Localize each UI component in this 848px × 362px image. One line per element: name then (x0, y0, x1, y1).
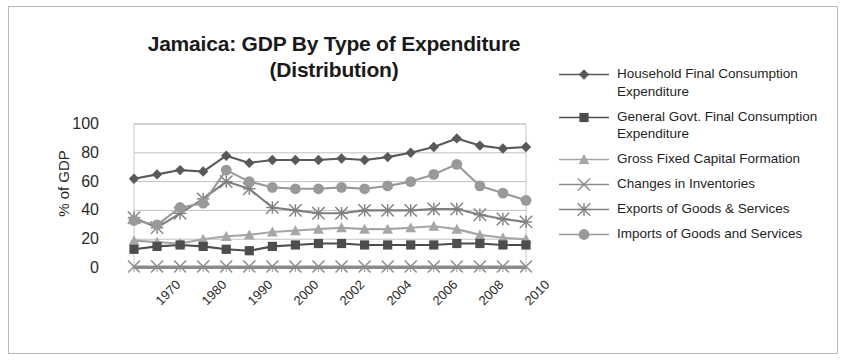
data-point-marker (474, 181, 485, 192)
legend-label: Imports of Goods and Services (611, 225, 802, 243)
data-point-marker (175, 202, 186, 213)
data-point-marker (474, 209, 486, 221)
legend-marker-square-icon (557, 109, 611, 126)
legend-label: Exports of Goods & Services (611, 200, 790, 218)
legend-item: Household Final Consumption Expenditure (557, 65, 848, 101)
data-point-marker (383, 240, 392, 249)
legend-item: Exports of Goods & Services (557, 200, 848, 218)
data-point-marker (129, 215, 140, 226)
data-point-marker (405, 204, 417, 216)
data-point-marker (266, 201, 278, 213)
data-point-marker (360, 240, 369, 249)
data-point-marker (314, 239, 323, 248)
data-point-marker (521, 240, 530, 249)
data-point-marker (497, 213, 509, 225)
data-point-marker (359, 183, 370, 194)
data-point-marker (498, 188, 509, 199)
data-point-marker (335, 207, 347, 219)
data-point-marker (268, 242, 277, 251)
data-point-marker (578, 204, 590, 216)
legend-label: Gross Fixed Capital Formation (611, 150, 800, 168)
data-point-marker (579, 113, 588, 122)
data-point-marker (381, 204, 393, 216)
legend-marker-circle-icon (557, 226, 611, 243)
data-point-marker (405, 176, 416, 187)
legend-marker-star-icon (557, 201, 611, 218)
data-point-marker (428, 203, 440, 215)
legend-label: Changes in Inventories (611, 175, 755, 193)
legend-label: General Govt. Final Consumption Expendit… (611, 108, 848, 144)
data-point-marker (475, 239, 484, 248)
data-point-marker (406, 240, 415, 249)
legend-item: Imports of Goods and Services (557, 225, 848, 243)
data-point-marker (429, 240, 438, 249)
chart-frame: Jamaica: GDP By Type of Expenditure (Dis… (8, 6, 838, 354)
data-point-marker (291, 240, 300, 249)
data-point-marker (579, 69, 589, 79)
data-point-marker (521, 195, 532, 206)
data-point-marker (358, 204, 370, 216)
chart-legend: Household Final Consumption ExpenditureG… (557, 65, 848, 250)
data-point-marker (152, 219, 163, 230)
legend-marker-diamond-icon (557, 66, 611, 83)
legend-item: Changes in Inventories (557, 175, 848, 193)
data-point-marker (129, 245, 138, 254)
data-point-marker (244, 176, 255, 187)
data-point-marker (313, 183, 324, 194)
data-point-marker (579, 229, 590, 240)
data-point-marker (498, 240, 507, 249)
data-point-marker (382, 181, 393, 192)
data-point-marker (245, 246, 254, 255)
data-point-marker (452, 239, 461, 248)
data-point-marker (152, 242, 161, 251)
data-point-marker (451, 159, 462, 170)
data-point-marker (290, 183, 301, 194)
data-point-marker (428, 169, 439, 180)
data-point-marker (289, 204, 301, 216)
legend-item: Gross Fixed Capital Formation (557, 150, 848, 168)
legend-label: Household Final Consumption Expenditure (611, 65, 848, 101)
data-point-marker (520, 216, 532, 228)
legend-item: General Govt. Final Consumption Expendit… (557, 108, 848, 144)
data-point-marker (451, 203, 463, 215)
data-point-marker (198, 198, 209, 209)
data-point-marker (312, 207, 324, 219)
legend-marker-x-icon (557, 176, 611, 193)
data-point-marker (222, 245, 231, 254)
data-point-marker (199, 242, 208, 251)
data-point-marker (221, 165, 232, 176)
data-point-marker (267, 182, 278, 193)
data-point-marker (336, 182, 347, 193)
data-point-marker (176, 240, 185, 249)
legend-marker-triangle-icon (557, 151, 611, 168)
data-point-marker (337, 239, 346, 248)
